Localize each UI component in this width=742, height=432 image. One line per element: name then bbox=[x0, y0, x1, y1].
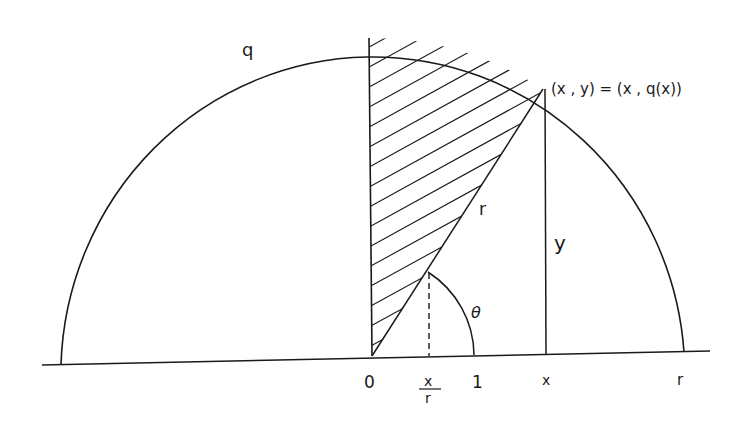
y-height-line bbox=[545, 89, 546, 354]
radius-line bbox=[372, 89, 543, 356]
label-x-over-r-numerator: x bbox=[424, 373, 432, 389]
label-radius: r bbox=[479, 199, 486, 219]
semicircle-diagram: q (x , y) = (x , q(x)) r y θ 0 x r 1 x r bbox=[0, 0, 742, 432]
label-origin: 0 bbox=[364, 372, 375, 392]
label-axis-x: x bbox=[542, 372, 550, 388]
shaded-sector bbox=[360, 0, 600, 352]
label-axis-r: r bbox=[677, 371, 684, 389]
unit-arc bbox=[428, 272, 474, 355]
label-one: 1 bbox=[472, 372, 483, 392]
curve-q bbox=[61, 57, 684, 364]
label-x-over-r-denominator: r bbox=[425, 390, 431, 406]
label-theta: θ bbox=[471, 303, 481, 322]
label-curve-q: q bbox=[242, 39, 253, 60]
label-y: y bbox=[554, 231, 566, 255]
x-axis-line bbox=[42, 351, 710, 365]
label-point: (x , y) = (x , q(x)) bbox=[551, 80, 682, 98]
